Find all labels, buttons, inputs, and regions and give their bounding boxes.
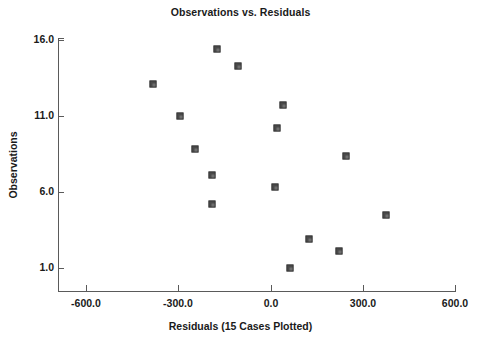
data-point bbox=[176, 113, 183, 120]
x-axis-tick bbox=[455, 285, 456, 292]
data-point bbox=[305, 236, 312, 243]
data-point bbox=[279, 102, 286, 109]
data-point bbox=[342, 152, 349, 159]
data-point bbox=[335, 248, 342, 255]
scatter-plot-figure: Observations vs. Residuals 16.011.06.01.… bbox=[0, 0, 481, 353]
data-point bbox=[208, 201, 215, 208]
y-axis-tick bbox=[58, 192, 64, 193]
x-axis-tick bbox=[363, 285, 364, 292]
data-point bbox=[191, 146, 198, 153]
y-axis-tick bbox=[58, 268, 64, 269]
data-point bbox=[234, 62, 241, 69]
x-axis-tick bbox=[271, 285, 272, 292]
y-axis-title-wrap: Observations bbox=[4, 38, 22, 292]
x-axis-tick-label: -600.0 bbox=[52, 297, 120, 309]
plot-area bbox=[58, 38, 456, 291]
x-axis-tick-label: 300.0 bbox=[329, 297, 397, 309]
x-axis-tick-label: -300.0 bbox=[144, 297, 212, 309]
data-point bbox=[382, 211, 389, 218]
x-axis-line bbox=[58, 291, 456, 292]
y-axis-title: Observations bbox=[7, 131, 19, 198]
data-point bbox=[149, 81, 156, 88]
y-axis-tick bbox=[58, 40, 64, 41]
x-axis-tick bbox=[178, 285, 179, 292]
data-point bbox=[273, 125, 280, 132]
x-axis-tick-label: 0.0 bbox=[237, 297, 305, 309]
x-axis-tick-label: 600.0 bbox=[421, 297, 481, 309]
x-axis-tick bbox=[86, 285, 87, 292]
data-point bbox=[208, 172, 215, 179]
y-axis-tick bbox=[58, 116, 64, 117]
data-point bbox=[286, 265, 293, 272]
data-point bbox=[272, 184, 279, 191]
chart-title: Observations vs. Residuals bbox=[0, 6, 481, 18]
data-point bbox=[213, 46, 220, 53]
x-axis-title: Residuals (15 Cases Plotted) bbox=[0, 320, 481, 332]
